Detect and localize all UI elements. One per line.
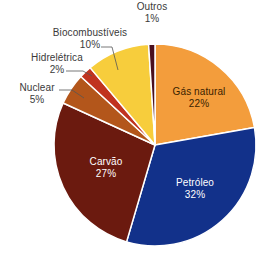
label-outros: Outros 1% xyxy=(137,1,168,25)
label-gas-natural-pct: 22% xyxy=(173,98,226,110)
label-carvao-pct: 27% xyxy=(90,168,123,180)
label-hidreletrica-pct: 2% xyxy=(31,64,83,76)
label-nuclear: Nuclear 5% xyxy=(19,82,54,106)
label-nuclear-pct: 5% xyxy=(19,94,54,106)
label-outros-pct: 1% xyxy=(137,13,168,25)
label-petroleo-pct: 32% xyxy=(176,189,214,201)
label-biocombustiveis: Biocombustíveis 10% xyxy=(53,27,127,51)
label-biocombustiveis-pct: 10% xyxy=(53,39,127,51)
label-carvao-name: Carvão xyxy=(90,156,123,168)
label-nuclear-name: Nuclear xyxy=(19,82,54,94)
label-hidreletrica-name: Hidrelétrica xyxy=(31,52,83,64)
pie-chart xyxy=(0,0,266,254)
label-gas-natural: Gás natural 22% xyxy=(173,86,226,110)
label-hidreletrica: Hidrelétrica 2% xyxy=(31,52,83,76)
label-petroleo: Petróleo 32% xyxy=(176,177,214,201)
pie-slices xyxy=(54,44,256,246)
label-outros-name: Outros xyxy=(137,1,168,13)
label-petroleo-name: Petróleo xyxy=(176,177,214,189)
label-biocombustiveis-name: Biocombustíveis xyxy=(53,27,127,39)
label-carvao: Carvão 27% xyxy=(90,156,123,180)
label-gas-natural-name: Gás natural xyxy=(173,86,226,98)
